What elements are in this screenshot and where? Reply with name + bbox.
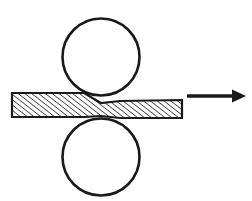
rolling-mill-figure (0, 0, 252, 201)
rolling-diagram-canvas (0, 0, 252, 201)
upper-roll (63, 19, 140, 96)
lower-roll (63, 119, 140, 196)
